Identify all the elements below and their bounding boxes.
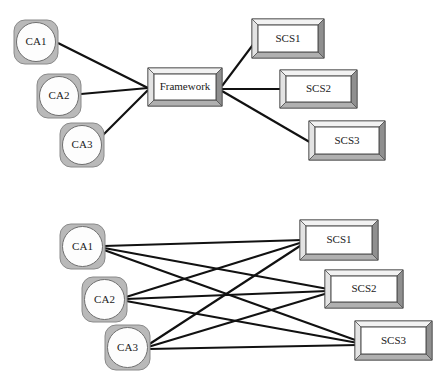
box-bevel-left bbox=[309, 121, 315, 160]
node-layer: CA1CA2CA3FrameworkSCS1SCS2SCS3CA1CA2CA3S… bbox=[14, 19, 432, 370]
box-bevel-right bbox=[351, 70, 357, 108]
edge-b-ca1-to-b-scs1 bbox=[104, 240, 303, 246]
box-bevel-bottom bbox=[309, 154, 385, 160]
node-b-ca3[interactable]: CA3 bbox=[105, 325, 150, 370]
node-label-t-ca3: CA3 bbox=[72, 138, 93, 150]
node-label-b-scs3: SCS3 bbox=[381, 334, 407, 346]
node-b-scs1[interactable]: SCS1 bbox=[300, 220, 378, 260]
node-t-ca1[interactable]: CA1 bbox=[14, 20, 58, 64]
box-bevel-top bbox=[355, 321, 432, 327]
node-label-t-scs1: SCS1 bbox=[275, 32, 300, 44]
box-bevel-right bbox=[379, 121, 385, 160]
box-bevel-right bbox=[372, 220, 378, 260]
edge-t-ca3-to-framework bbox=[100, 90, 148, 138]
box-bevel-top bbox=[148, 68, 222, 74]
box-bevel-left bbox=[148, 68, 154, 106]
box-bevel-left bbox=[355, 321, 361, 360]
box-bevel-right bbox=[426, 321, 432, 360]
box-bevel-left bbox=[325, 270, 331, 308]
node-label-framework: Framework bbox=[160, 80, 211, 92]
node-label-b-ca2: CA2 bbox=[94, 293, 115, 305]
box-bevel-bottom bbox=[280, 102, 357, 108]
box-bevel-top bbox=[300, 220, 378, 226]
box-bevel-right bbox=[397, 270, 403, 308]
edge-b-ca2-to-b-scs2 bbox=[126, 291, 328, 299]
box-bevel-left bbox=[300, 220, 306, 260]
box-bevel-right bbox=[216, 68, 222, 106]
node-label-t-ca1: CA1 bbox=[26, 35, 47, 47]
box-bevel-top bbox=[252, 19, 324, 25]
node-t-scs1[interactable]: SCS1 bbox=[252, 19, 324, 58]
box-bevel-top bbox=[325, 270, 403, 276]
node-label-t-scs2: SCS2 bbox=[306, 82, 331, 94]
box-bevel-bottom bbox=[148, 100, 222, 106]
box-bevel-top bbox=[309, 121, 385, 127]
box-bevel-top bbox=[280, 70, 357, 76]
node-b-scs2[interactable]: SCS2 bbox=[325, 270, 403, 308]
node-label-t-ca2: CA2 bbox=[49, 89, 70, 101]
box-bevel-bottom bbox=[252, 52, 324, 58]
node-b-ca2[interactable]: CA2 bbox=[82, 277, 127, 322]
diagram-surface: CA1CA2CA3FrameworkSCS1SCS2SCS3CA1CA2CA3S… bbox=[0, 0, 446, 384]
top-diagram-nodes: CA1CA2CA3FrameworkSCS1SCS2SCS3 bbox=[14, 19, 385, 167]
edge-framework-to-t-scs1 bbox=[222, 42, 255, 86]
box-bevel-bottom bbox=[325, 302, 403, 308]
node-label-b-ca1: CA1 bbox=[72, 240, 93, 252]
box-bevel-right bbox=[318, 19, 324, 58]
node-t-scs3[interactable]: SCS3 bbox=[309, 121, 385, 160]
node-label-b-ca3: CA3 bbox=[117, 341, 138, 353]
diagram-canvas: CA1CA2CA3FrameworkSCS1SCS2SCS3CA1CA2CA3S… bbox=[0, 0, 446, 384]
node-b-scs3[interactable]: SCS3 bbox=[355, 321, 432, 360]
box-bevel-left bbox=[252, 19, 258, 58]
edge-b-ca3-to-b-scs3 bbox=[148, 345, 358, 349]
box-bevel-bottom bbox=[300, 254, 378, 260]
box-bevel-bottom bbox=[355, 354, 432, 360]
node-b-ca1[interactable]: CA1 bbox=[60, 224, 105, 269]
node-t-ca2[interactable]: CA2 bbox=[37, 74, 81, 118]
node-label-t-scs3: SCS3 bbox=[334, 134, 360, 146]
edge-t-ca2-to-framework bbox=[81, 88, 148, 94]
node-t-scs2[interactable]: SCS2 bbox=[280, 70, 357, 108]
node-label-b-scs1: SCS1 bbox=[326, 233, 351, 245]
box-bevel-left bbox=[280, 70, 286, 108]
node-t-ca3[interactable]: CA3 bbox=[60, 123, 104, 167]
node-framework[interactable]: Framework bbox=[148, 68, 222, 106]
node-label-b-scs2: SCS2 bbox=[351, 282, 376, 294]
